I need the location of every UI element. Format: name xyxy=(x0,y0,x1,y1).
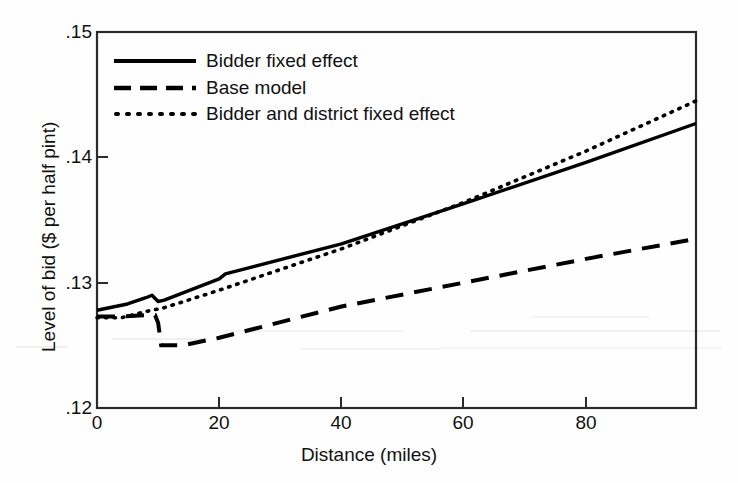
y-tick-label-015: .15 xyxy=(48,21,92,43)
series-line-bidder-and-district-fixed-effect xyxy=(97,101,696,318)
x-tick-label-80: 80 xyxy=(566,412,606,434)
x-tick-label-20: 20 xyxy=(199,412,239,434)
series-group xyxy=(97,101,696,345)
legend-label-base-model: Base model xyxy=(206,77,306,99)
legend-label-bidder-and-district-fixed-effect: Bidder and district fixed effect xyxy=(206,103,455,125)
chart-figure: .15 .14 .13 .12 0 20 40 60 80 Level of b… xyxy=(0,0,738,483)
x-axis-title: Distance (miles) xyxy=(0,444,738,466)
x-tick-label-60: 60 xyxy=(443,412,483,434)
x-tick-label-40: 40 xyxy=(321,412,361,434)
legend-label-bidder-fixed-effect: Bidder fixed effect xyxy=(206,50,358,72)
plot-frame xyxy=(97,32,696,408)
y-axis-ticks xyxy=(97,32,108,408)
plot-canvas xyxy=(0,0,738,483)
series-line-bidder-fixed-effect xyxy=(97,123,696,310)
y-axis-title: Level of bid ($ per half pint) xyxy=(38,122,60,352)
x-tick-label-0: 0 xyxy=(77,412,117,434)
x-axis-ticks xyxy=(97,397,586,408)
legend-samples xyxy=(114,61,196,114)
